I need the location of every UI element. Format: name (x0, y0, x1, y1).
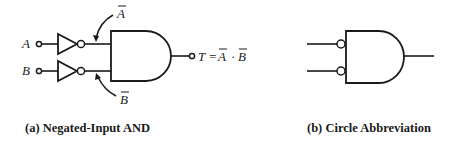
input-2-bubble (337, 67, 345, 75)
inverter-a (58, 34, 77, 54)
caption-a: (a) Negated-Input AND (25, 121, 150, 135)
output-terminal (189, 53, 194, 58)
output-expr-dot: · (231, 49, 235, 64)
output-label: T = (198, 49, 217, 64)
arrowhead-not-a (93, 35, 99, 42)
inverter-b-bubble (77, 67, 84, 74)
inverter-a-bubble (77, 40, 84, 47)
logic-diagram: A B T = A · B A B (a) Negated-I (0, 0, 451, 152)
circle-abbreviation-figure: (b) Circle Abbreviation (307, 31, 434, 135)
inverter-b (58, 61, 77, 81)
input-b-terminal (36, 68, 41, 73)
output-expr-a: A (217, 49, 226, 64)
input-1-bubble (337, 40, 345, 48)
not-a-annotation: A (116, 6, 125, 21)
and-gate-b (346, 31, 404, 83)
and-gate-a (111, 31, 171, 81)
arrowhead-not-b (95, 73, 101, 80)
not-b-annotation: B (120, 92, 128, 107)
negated-input-and-figure: A B T = A · B A B (a) Negated-I (21, 6, 247, 135)
input-b-label: B (22, 63, 30, 78)
input-a-terminal (36, 41, 41, 46)
input-a-label: A (21, 36, 30, 51)
output-expr-b: B (238, 49, 246, 64)
caption-b: (b) Circle Abbreviation (307, 121, 431, 135)
